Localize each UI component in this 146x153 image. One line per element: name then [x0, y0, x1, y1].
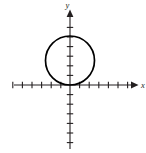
- y-axis-arrowhead: [67, 10, 74, 18]
- x-axis-arrowhead: [131, 82, 139, 89]
- figure-container: y x: [0, 0, 146, 153]
- y-axis-label: y: [65, 0, 70, 10]
- y-axis-group: [67, 10, 74, 150]
- coordinate-graph: y x: [0, 0, 146, 153]
- x-axis-label: x: [140, 80, 145, 90]
